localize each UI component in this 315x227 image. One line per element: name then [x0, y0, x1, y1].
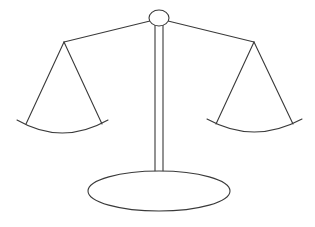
balance-scale-illustration [0, 0, 315, 227]
balance-scale-icon [0, 0, 315, 227]
top-knob [149, 10, 169, 26]
scale-base [88, 171, 230, 211]
